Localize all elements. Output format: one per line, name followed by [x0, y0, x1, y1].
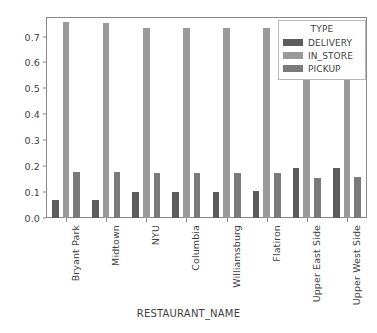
bar: [274, 173, 281, 218]
x-tick-mark: [146, 218, 147, 222]
y-tick-label: 0.6: [25, 57, 40, 68]
bar: [314, 178, 321, 218]
legend-entry: PICKUP: [283, 62, 361, 75]
x-tick-label: Upper East Side: [311, 225, 322, 302]
bar: [103, 23, 110, 218]
bar: [92, 200, 99, 218]
bar: [114, 172, 121, 218]
x-tick-label: Williamsburg: [231, 225, 242, 288]
x-tick-mark: [267, 218, 268, 222]
legend-label: PICKUP: [308, 64, 341, 74]
y-tick-label: 0.2: [25, 161, 40, 172]
x-tick-mark: [307, 218, 308, 222]
x-tick-label: Upper West Side: [351, 225, 362, 305]
bar: [154, 173, 161, 218]
bar: [172, 192, 179, 218]
bar: [52, 200, 59, 218]
bar: [333, 168, 340, 218]
legend-title: TYPE: [283, 24, 361, 34]
legend-swatch: [283, 39, 303, 46]
bar: [183, 28, 190, 218]
x-tick-mark: [106, 218, 107, 222]
y-tick-label: 0.3: [25, 135, 40, 146]
bar: [73, 172, 80, 218]
x-axis-title: RESTAURANT_NAME: [0, 308, 377, 319]
legend-swatch: [283, 65, 303, 72]
x-tick-mark: [227, 218, 228, 222]
bar: [143, 28, 150, 219]
x-tick-mark: [347, 218, 348, 222]
bar: [253, 191, 260, 218]
bar: [263, 28, 270, 218]
x-tick-label: Bryant Park: [70, 225, 81, 281]
bar: [213, 192, 220, 218]
bar-chart-figure: 0.00.10.20.30.40.50.60.7 Bryant ParkMidt…: [0, 0, 377, 333]
legend-swatch: [283, 52, 303, 59]
x-tick-mark: [186, 218, 187, 222]
x-tick-label: Midtown: [110, 225, 121, 266]
y-tick-label: 0.7: [25, 31, 40, 42]
x-tick-label: Columbia: [190, 225, 201, 271]
legend-entries: DELIVERYIN_STOREPICKUP: [283, 36, 361, 75]
y-tick-label: 0.4: [25, 109, 40, 120]
legend-label: IN_STORE: [308, 51, 353, 61]
legend-entry: DELIVERY: [283, 36, 361, 49]
y-tick-label: 0.1: [25, 187, 40, 198]
legend-entry: IN_STORE: [283, 49, 361, 62]
legend-label: DELIVERY: [308, 38, 352, 48]
bar: [293, 168, 300, 218]
y-tick-label: 0.5: [25, 83, 40, 94]
bar: [354, 177, 361, 218]
bar: [234, 173, 241, 218]
y-tick-label: 0.0: [25, 213, 40, 224]
x-tick-mark: [66, 218, 67, 222]
x-tick-label: Flatiron: [271, 225, 282, 262]
bar: [132, 192, 139, 218]
chart-legend: TYPE DELIVERYIN_STOREPICKUP: [278, 20, 366, 80]
bar: [223, 28, 230, 218]
bar: [63, 22, 70, 218]
x-tick-label: NYU: [150, 225, 161, 245]
bar: [194, 173, 201, 218]
